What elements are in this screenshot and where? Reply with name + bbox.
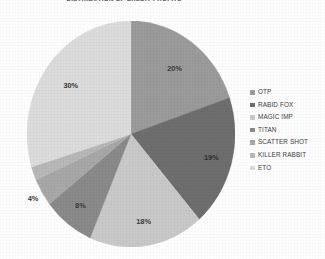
pie-svg: 20%19%18%8%4%2%30% xyxy=(27,21,235,247)
legend-swatch-icon xyxy=(250,115,255,120)
pie-slice-label-rabid-fox: 19% xyxy=(204,153,219,162)
chart-legend: OTPRABID FOXMAGIC IMPTITANSCATTER SHOTKI… xyxy=(250,86,325,174)
legend-swatch-icon xyxy=(250,128,255,133)
chart-title: DISTRIBUTION OF CREDIT PROFITS xyxy=(0,0,248,2)
legend-item-otp[interactable]: OTP xyxy=(250,86,325,99)
legend-item-label: KILLER RABBIT xyxy=(258,152,306,158)
pie-chart-plot-area: 20%19%18%8%4%2%30% xyxy=(27,21,235,247)
pie-slice-label-otp: 20% xyxy=(167,64,182,73)
legend-swatch-icon xyxy=(250,103,255,108)
pie-chart-figure: DISTRIBUTION OF CREDIT PROFITS 20%19%18%… xyxy=(0,0,325,259)
legend-swatch-icon xyxy=(250,153,255,158)
legend-item-label: TITAN xyxy=(258,127,277,133)
legend-item-label: OTP xyxy=(258,89,271,95)
pie-slice-label-scatter-shot: 4% xyxy=(28,194,39,203)
legend-item-magic-imp[interactable]: MAGIC IMP xyxy=(250,111,325,124)
legend-item-label: ETO xyxy=(258,165,271,171)
legend-item-eto[interactable]: ETO xyxy=(250,162,325,175)
legend-item-killer-rabbit[interactable]: KILLER RABBIT xyxy=(250,149,325,162)
legend-item-label: RABID FOX xyxy=(258,102,293,108)
legend-item-label: MAGIC IMP xyxy=(258,114,293,120)
pie-slice-label-magic-imp: 18% xyxy=(136,217,151,226)
legend-swatch-icon xyxy=(250,140,255,145)
legend-swatch-icon xyxy=(250,166,255,171)
legend-item-titan[interactable]: TITAN xyxy=(250,124,325,137)
pie-slice-label-eto: 30% xyxy=(63,81,78,90)
legend-item-label: SCATTER SHOT xyxy=(258,139,308,145)
legend-swatch-icon xyxy=(250,90,255,95)
pie-slice-label-titan: 8% xyxy=(75,201,86,210)
pie-slice-group xyxy=(27,21,235,247)
legend-item-rabid-fox[interactable]: RABID FOX xyxy=(250,99,325,112)
legend-item-scatter-shot[interactable]: SCATTER SHOT xyxy=(250,136,325,149)
